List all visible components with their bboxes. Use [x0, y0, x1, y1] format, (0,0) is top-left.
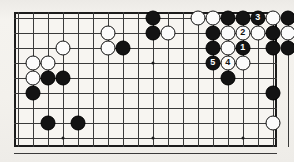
stone-move-number: 5 [210, 58, 215, 67]
stone-white[interactable] [100, 26, 115, 41]
stone-white[interactable] [280, 26, 294, 41]
stone-black[interactable] [55, 71, 70, 86]
stone-move-number: 1 [240, 43, 245, 52]
stone-black[interactable] [205, 41, 220, 56]
stone-black[interactable] [145, 11, 160, 26]
stone-black[interactable] [265, 86, 280, 101]
stone-white[interactable] [265, 11, 280, 26]
stone-black[interactable] [70, 116, 85, 131]
diagram-page: 32154 [0, 0, 294, 162]
stone-white[interactable] [235, 56, 250, 71]
stone-black[interactable] [205, 26, 220, 41]
stone-white[interactable] [190, 11, 205, 26]
stone-black[interactable] [280, 41, 294, 56]
stone-black[interactable] [220, 71, 235, 86]
stone-black-move-3[interactable]: 3 [250, 11, 265, 26]
stone-white[interactable] [55, 41, 70, 56]
stone-black[interactable] [265, 26, 280, 41]
stone-white-move-2[interactable]: 2 [235, 26, 250, 41]
stone-white[interactable] [100, 41, 115, 56]
stone-move-number: 2 [240, 28, 245, 37]
stone-white[interactable] [205, 11, 220, 26]
stone-white[interactable] [25, 56, 40, 71]
grid-line-horizontal [14, 153, 277, 154]
stone-black-move-1[interactable]: 1 [235, 41, 250, 56]
stone-black[interactable] [280, 11, 294, 26]
hoshi-point [151, 137, 154, 140]
stone-white[interactable] [250, 26, 265, 41]
stone-move-number: 3 [255, 13, 260, 22]
go-board[interactable]: 32154 [14, 12, 277, 147]
stone-white[interactable] [40, 56, 55, 71]
stone-move-number: 4 [225, 58, 230, 67]
grid-line-horizontal [14, 138, 277, 139]
stone-white[interactable] [25, 71, 40, 86]
stone-white[interactable] [220, 41, 235, 56]
stone-black[interactable] [40, 116, 55, 131]
hoshi-point [151, 62, 154, 65]
grid-line-horizontal [14, 93, 277, 94]
stone-black[interactable] [40, 71, 55, 86]
stone-white[interactable] [220, 26, 235, 41]
stone-black[interactable] [145, 26, 160, 41]
hoshi-point [241, 137, 244, 140]
hoshi-point [61, 137, 64, 140]
stone-black[interactable] [265, 41, 280, 56]
stone-white[interactable] [265, 116, 280, 131]
stone-white[interactable] [160, 26, 175, 41]
stone-black[interactable] [115, 41, 130, 56]
stone-black-move-5[interactable]: 5 [205, 56, 220, 71]
stone-black[interactable] [235, 11, 250, 26]
grid-line-horizontal [14, 108, 277, 109]
stone-white-move-4[interactable]: 4 [220, 56, 235, 71]
stone-black[interactable] [220, 11, 235, 26]
stone-black[interactable] [25, 86, 40, 101]
